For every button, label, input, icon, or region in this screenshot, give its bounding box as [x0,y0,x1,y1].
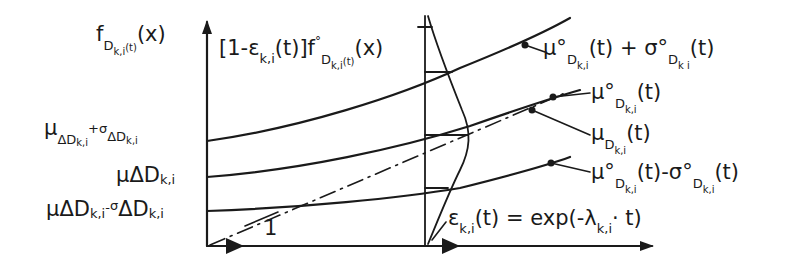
subsub-b: k,i [126,135,138,146]
curve-lower [207,157,570,211]
left-label-mean: μΔDk,i [116,165,175,186]
density-label-mid: (t)]f [275,36,315,60]
right-label-mean-actual: μDk,i(t) [591,123,651,144]
sigma-symbol: σ [99,121,107,136]
mu-symbol: μ [591,121,604,145]
tail2: (t) [714,160,739,184]
subsub2: k i [678,60,690,71]
epsilon-symbol: ε [448,206,459,230]
tail: (t)-σ° [637,160,693,184]
x-axis-arrowhead-mid-left [226,238,244,254]
tail: (t) [637,80,662,104]
epsilon-label: εk,i(t) = exp(-λk,i· t) [448,208,642,229]
sub: D [604,137,614,152]
tail: · t) [612,206,642,230]
subsub-a: k,i [90,206,105,221]
y-label-sub: D [103,38,113,53]
sub-a: ΔD [129,163,160,187]
marker-dot-mean-nominal [550,94,557,101]
density-label-arg: (x) [354,36,383,60]
mu-ring-symbol: μ° [543,36,567,60]
mid: (t) = exp(-λ [475,206,597,230]
y-label-subarg: (t) [125,42,137,53]
x-axis-arrowhead-mid-right [442,238,460,254]
marker-dot-lower [548,160,555,167]
density-label-subsub: k,i [331,60,343,71]
density-label-ring: ° [315,34,321,48]
curve-mean [207,90,580,177]
sub2: D [693,176,703,191]
sub: k,i [459,221,474,236]
sub: D [567,52,577,67]
sub-b: ΔD [118,197,149,221]
sub-a: ΔD [57,132,76,147]
subsub: k,i [577,60,589,71]
tail: (t) + σ° [589,36,668,60]
marker-dot-mean-actual [529,107,536,114]
subsub: k,i [614,145,626,156]
sub: D [615,96,625,111]
mu-symbol: μ [116,163,129,187]
left-label-lower: μΔDk,i-σΔDk,i [46,199,164,220]
leader-mean-actual [532,110,590,135]
mu-ring-symbol: μ° [591,160,615,184]
subsub-a: k,i [160,172,175,187]
subsub2: k,i [703,184,715,195]
mu-ring-symbol: μ° [591,80,615,104]
curve-upper [207,18,570,141]
sub-b: ΔD [107,129,126,144]
right-label-mean-nominal: μ°Dk,i(t) [591,82,661,103]
y-axis-label: fDk,i(t)(x) [96,24,166,45]
density-label-pre: [1-ε [219,36,259,60]
sub-a: ΔD [59,197,90,221]
sigma-symbol: σ [110,198,118,213]
operator: + [88,121,99,136]
subsub-a: k,i [76,137,88,148]
mu-symbol: μ [46,197,59,221]
subsub: k,i [625,184,637,195]
mu-symbol: μ [44,116,57,140]
tail: (t) [626,121,651,145]
density-label: [1-εk,i(t)]f°Dk,i(t)(x) [219,38,383,59]
sub: D [615,176,625,191]
sub2: D [668,52,678,67]
y-label-subsub: k,i [113,46,125,57]
y-label-arg: (x) [137,22,166,46]
leader-lower [551,163,590,172]
diagram-canvas: fDk,i(t)(x) [1-εk,i(t)]f°Dk,i(t)(x) μΔDk… [0,0,804,270]
density-label-subarg: (t) [343,56,355,67]
right-label-lower: μ°Dk,i(t)-σ°Dk,i(t) [591,162,739,183]
subsub-b: k,i [149,206,164,221]
subsub: k,i [625,104,637,115]
left-label-upper: μΔDk,i+σΔDk,i [44,118,138,139]
tail2: (t) [690,36,715,60]
density-label-sub: k,i [259,51,274,66]
right-label-upper: μ°Dk,i(t) + σ°Dk i(t) [543,38,714,59]
density-label-sub2: D [321,52,331,67]
slope-label: 1 [264,218,277,239]
sub2: k,i [597,221,612,236]
marker-dot-upper [522,42,529,49]
